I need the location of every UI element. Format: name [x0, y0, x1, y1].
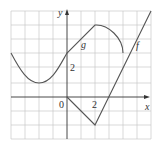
x-axis-arrow-icon: [144, 95, 150, 99]
x-tick-2-label: 2: [92, 99, 97, 110]
graph-canvas: y x 0 2 2 g f: [0, 0, 163, 146]
g-curve-label: g: [81, 39, 86, 50]
f-curve-label: f: [136, 40, 140, 51]
x-axis-label: x: [144, 101, 150, 112]
origin-label: 0: [59, 99, 64, 110]
grid: [11, 11, 151, 139]
y-axis-arrow-icon: [65, 9, 69, 15]
y-tick-2-label: 2: [70, 62, 75, 73]
y-axis-label: y: [57, 7, 63, 18]
